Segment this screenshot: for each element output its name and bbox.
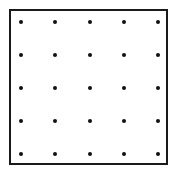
grid-dot-r5-c3	[88, 152, 92, 156]
grid-dot-r4-c3	[88, 119, 92, 123]
grid-dot-r3-c3	[88, 86, 92, 90]
grid-dot-r2-c4	[122, 53, 126, 57]
grid-dot-r1-c3	[88, 20, 92, 24]
grid-dot-r5-c5	[156, 152, 160, 156]
grid-dot-r3-c5	[156, 86, 160, 90]
grid-dot-r1-c1	[19, 20, 23, 24]
grid-dot-r1-c4	[122, 20, 126, 24]
grid-dot-r4-c5	[156, 119, 160, 123]
grid-dot-r2-c2	[53, 53, 57, 57]
grid-dot-r4-c1	[19, 119, 23, 123]
grid-dot-r5-c4	[122, 152, 126, 156]
grid-dot-r3-c1	[19, 86, 23, 90]
grid-dot-r3-c4	[122, 86, 126, 90]
grid-dot-r4-c2	[53, 119, 57, 123]
grid-dot-r2-c5	[156, 53, 160, 57]
grid-dot-r5-c2	[53, 152, 57, 156]
grid-dot-r4-c4	[122, 119, 126, 123]
grid-dot-r1-c5	[156, 20, 160, 24]
grid-dot-r2-c1	[19, 53, 23, 57]
grid-dot-r2-c3	[88, 53, 92, 57]
grid-dot-r1-c2	[53, 20, 57, 24]
grid-dot-r3-c2	[53, 86, 57, 90]
grid-dot-r5-c1	[19, 152, 23, 156]
